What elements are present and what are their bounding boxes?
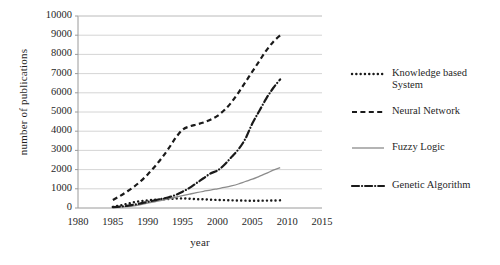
y-tick-label: 2000 [30,163,72,174]
y-tick-label: 3000 [30,143,72,154]
gridlines [78,16,322,189]
series-line-3 [113,79,280,207]
y-tick-label: 1000 [30,182,72,193]
legend-item-label: Knowledge based System [392,67,467,91]
legend-item-label: Genetic Algorithm [392,179,470,191]
y-tick-label: 9000 [30,28,72,39]
y-tick-label: 10000 [30,9,72,20]
x-tick-label: 2015 [302,216,342,227]
y-tick-label: 6000 [30,86,72,97]
y-tick-label: 7000 [30,67,72,78]
series-line-1 [113,35,280,200]
y-tick-label: 8000 [30,47,72,58]
publication-trends-chart: number of publications year 010002000300… [0,0,500,265]
data-series-layer [113,35,280,207]
legend-markers [352,74,384,186]
x-axis-title: year [150,236,250,248]
legend-item-label: Neural Network [392,105,460,117]
y-axis-title: number of publications [17,27,29,177]
y-tick-label: 0 [30,201,72,212]
y-tick-label: 4000 [30,124,72,135]
legend-item-label: Fuzzy Logic [392,141,445,153]
y-tick-label: 5000 [30,105,72,116]
